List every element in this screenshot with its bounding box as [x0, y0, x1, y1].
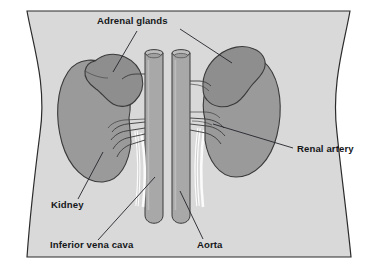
- aorta-vessel: [172, 50, 190, 224]
- label-kidney: Kidney: [51, 199, 84, 210]
- label-renal-artery: Renal artery: [297, 143, 354, 154]
- label-aorta: Aorta: [197, 239, 223, 250]
- label-adrenal-glands: Adrenal glands: [97, 15, 168, 26]
- anatomy-figure: Adrenal glands Renal artery Kidney Infer…: [0, 0, 377, 271]
- label-inferior-vena-cava: Inferior vena cava: [50, 239, 134, 250]
- anatomy-diagram-canvas: Adrenal glands Renal artery Kidney Infer…: [0, 0, 377, 271]
- inferior-vena-cava-vessel: [145, 50, 163, 224]
